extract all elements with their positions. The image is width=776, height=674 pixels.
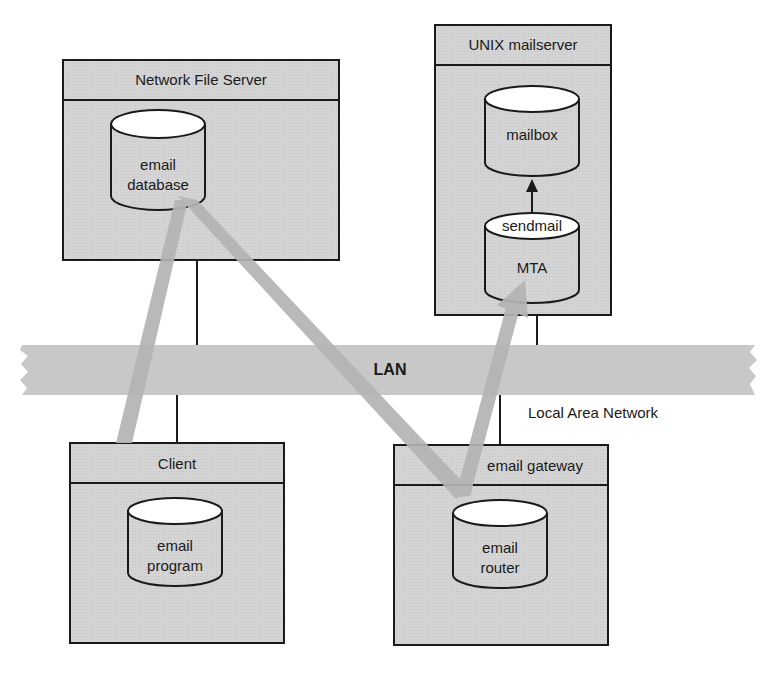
lan-caption: Local Area Network	[528, 403, 688, 422]
mailbox-label: mailbox	[485, 125, 579, 144]
email-database-label-line2: database	[111, 175, 205, 194]
lan-label: LAN	[360, 360, 420, 379]
email-network-diagram	[0, 0, 776, 674]
gateway-title: email gateway	[470, 456, 600, 475]
email-router-label-line1: email	[453, 538, 547, 557]
sendmail-label: sendmail	[485, 216, 579, 235]
mailserver-title: UNIX mailserver	[435, 35, 611, 54]
email-router-label-line2: router	[453, 558, 547, 577]
email-program-label-line1: email	[128, 536, 222, 555]
email-program-label-line2: program	[128, 556, 222, 575]
file-server-title: Network File Server	[63, 70, 339, 89]
client-title: Client	[70, 454, 284, 473]
mta-label: MTA	[485, 258, 579, 277]
email-database-label-line1: email	[111, 155, 205, 174]
